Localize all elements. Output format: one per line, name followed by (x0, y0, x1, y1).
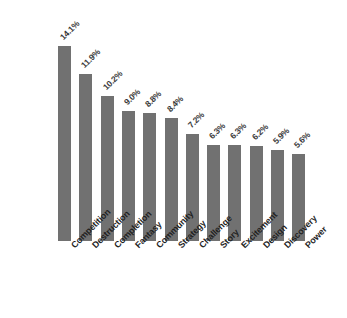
bar-group[interactable]: 6.2% (250, 20, 263, 241)
bar-value-label: 14.1% (58, 19, 81, 42)
bar-value-label: 9.0% (122, 87, 142, 107)
bar-chart: 14.1%11.9%10.2%9.0%8.8%8.4%7.2%6.3%6.3%6… (0, 0, 347, 318)
bar-group[interactable]: 6.3% (228, 20, 241, 241)
bar[interactable] (79, 74, 92, 241)
category-axis: CompetitionDestructionCompletionFantasyC… (58, 243, 312, 318)
bar-value-label: 5.9% (271, 126, 291, 146)
bar-value-label: 7.2% (186, 109, 206, 129)
bar[interactable] (58, 46, 71, 241)
bar-value-label: 8.4% (164, 94, 184, 114)
bar-value-label: 5.6% (292, 130, 312, 150)
bar-group[interactable]: 8.4% (165, 20, 178, 241)
bar-group[interactable]: 11.9% (79, 20, 92, 241)
bar-value-label: 6.2% (250, 122, 270, 142)
bar-group[interactable]: 5.9% (271, 20, 284, 241)
bar-value-label: 10.2% (101, 68, 124, 91)
bar-group[interactable]: 8.8% (143, 20, 156, 241)
bar-value-label: 11.9% (79, 47, 102, 70)
plot-area: 14.1%11.9%10.2%9.0%8.8%8.4%7.2%6.3%6.3%6… (58, 20, 312, 241)
bar-group[interactable]: 5.6% (292, 20, 305, 241)
bar-value-label: 6.3% (228, 121, 248, 141)
bar-value-label: 8.8% (143, 89, 163, 109)
bar-value-label: 6.3% (207, 121, 227, 141)
bar-group[interactable]: 6.3% (207, 20, 220, 241)
bar-group[interactable]: 14.1% (58, 20, 71, 241)
